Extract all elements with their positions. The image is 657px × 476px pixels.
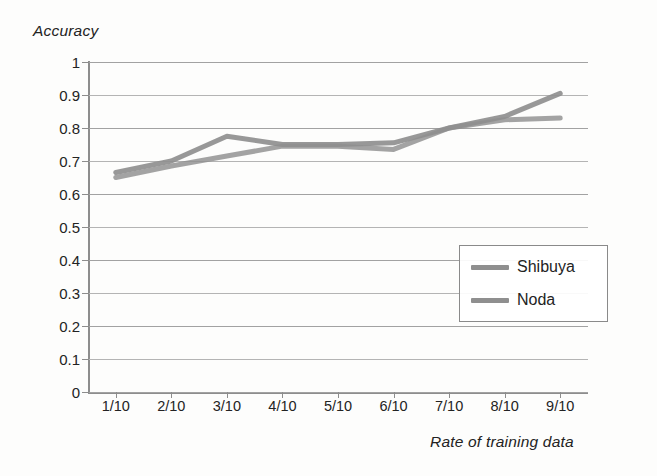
y-tick-label: 0.2: [59, 318, 80, 335]
legend-swatch-shibuya: [471, 265, 509, 270]
x-tick-mark: [560, 392, 561, 398]
x-tick-mark: [338, 392, 339, 398]
x-tick-mark: [282, 392, 283, 398]
x-tick-label: 7/10: [435, 398, 463, 414]
y-tick-label: 0.3: [59, 285, 80, 302]
x-tick-label: 2/10: [157, 398, 185, 414]
y-tick-label: 1: [72, 54, 80, 71]
x-tick-label: 3/10: [213, 398, 241, 414]
y-axis-tick-group: 10.90.80.70.60.50.40.30.20.10: [0, 0, 80, 476]
legend-item-shibuya[interactable]: Shibuya: [471, 255, 575, 279]
y-tick-mark: [82, 359, 89, 360]
legend-label-shibuya: Shibuya: [517, 258, 575, 276]
legend-item-noda[interactable]: Noda: [471, 288, 555, 312]
x-tick-mark: [449, 392, 450, 398]
y-tick-mark: [82, 392, 89, 393]
y-tick-label: 0.5: [59, 219, 80, 236]
x-tick-mark: [505, 392, 506, 398]
x-tick-mark: [171, 392, 172, 398]
y-tick-label: 0: [72, 384, 80, 401]
x-axis-title: Rate of training data: [430, 433, 574, 451]
y-tick-label: 0.9: [59, 87, 80, 104]
series-line-noda: [116, 118, 560, 177]
y-tick-mark: [82, 62, 89, 63]
x-tick-label: 5/10: [324, 398, 352, 414]
y-tick-label: 0.6: [59, 186, 80, 203]
x-tick-label: 1/10: [102, 398, 130, 414]
y-tick-label: 0.7: [59, 153, 80, 170]
series-layer: [88, 62, 588, 392]
legend: Shibuya Noda: [459, 245, 608, 322]
series-polylines: [88, 62, 588, 392]
y-tick-mark: [82, 161, 89, 162]
legend-swatch-noda: [471, 298, 509, 303]
y-tick-mark: [82, 194, 89, 195]
x-tick-label: 4/10: [268, 398, 296, 414]
x-tick-mark: [227, 392, 228, 398]
y-tick-mark: [82, 95, 89, 96]
y-tick-mark: [82, 128, 89, 129]
y-tick-mark: [82, 293, 89, 294]
y-tick-label: 0.4: [59, 252, 80, 269]
chart-figure: Accuracy 10.90.80.70.60.50.40.30.20.10 1…: [0, 0, 657, 476]
x-tick-label: 9/10: [546, 398, 574, 414]
legend-label-noda: Noda: [517, 291, 555, 309]
y-tick-mark: [82, 326, 89, 327]
x-tick-mark: [394, 392, 395, 398]
y-tick-mark: [82, 227, 89, 228]
series-line-shibuya: [116, 93, 560, 172]
y-tick-mark: [82, 260, 89, 261]
x-tick-label: 8/10: [491, 398, 519, 414]
y-tick-label: 0.1: [59, 351, 80, 368]
x-tick-mark: [116, 392, 117, 398]
y-tick-label: 0.8: [59, 120, 80, 137]
x-tick-label: 6/10: [379, 398, 407, 414]
